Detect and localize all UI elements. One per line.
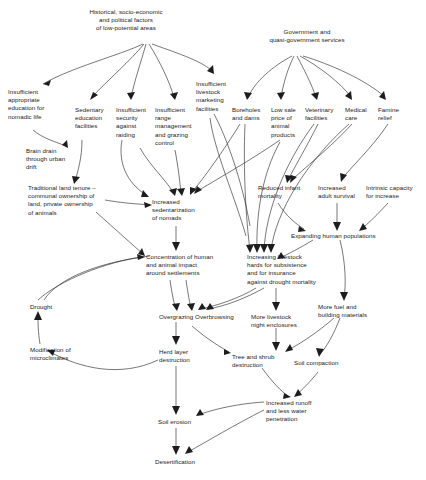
edge-tree-shrub-to-runoff	[262, 368, 288, 396]
node-boreholes-and-dams[interactable]: Boreholes and dams	[232, 106, 270, 122]
edge-runoff-to-soil-erosion	[198, 402, 264, 415]
node-fuel-and-building-materials[interactable]: More fuel and building materials	[318, 303, 378, 319]
edge-famine-to-adult-survival	[342, 124, 388, 179]
edge-government-to-low-sale	[281, 56, 294, 98]
edge-drought-to-concentration	[38, 257, 142, 300]
node-intrinsic-capacity[interactable]: Intrinsic capacity for increase	[366, 184, 424, 200]
edge-historical-to-security	[131, 44, 146, 98]
node-increasing-livestock-herds[interactable]: Increasing livestock hards for subsisten…	[247, 253, 329, 286]
node-expanding-human-populations[interactable]: Expanding human populations	[291, 232, 395, 240]
edge-group-government	[244, 56, 386, 100]
edge-security-to-sedentarization	[140, 148, 174, 194]
arrowhead-icon	[170, 92, 178, 100]
arrowhead-icon	[196, 409, 204, 416]
arrowhead-icon	[172, 303, 180, 311]
edge-drought-loop	[44, 256, 150, 300]
edge-expanding-to-fuel-building	[340, 240, 345, 298]
node-soil-erosion[interactable]: Soil erosion	[158, 418, 204, 426]
arrowhead-icon	[359, 223, 367, 231]
edge-historical-to-range-management	[149, 44, 174, 98]
edge-runoff-to-desertification	[188, 410, 264, 452]
node-range-management[interactable]: Insufficient range management and grazin…	[155, 106, 200, 147]
node-insufficient-security[interactable]: Insufficient security against raiding	[116, 106, 156, 139]
edge-land-tenure-to-concentration	[96, 212, 143, 254]
node-modification-of-microclimates[interactable]: Modification of microclimates	[30, 346, 84, 362]
arrowhead-icon	[34, 311, 42, 320]
arrowhead-icon	[311, 92, 319, 100]
node-historical-factors[interactable]: Historical, socio-economic and political…	[70, 8, 182, 33]
arrowhead-icon	[172, 242, 180, 251]
arrowhead-icon	[379, 91, 386, 100]
node-increased-runoff[interactable]: Increased runoff and less water penetrat…	[266, 399, 324, 424]
node-overgrazing-overbrowsing[interactable]: Overgrazing Overbrowsing	[159, 313, 253, 321]
node-night-enclosures[interactable]: More livestock night enclosures	[251, 313, 309, 329]
arrowhead-icon	[144, 202, 152, 208]
edge-sedentary-to-sedentarization	[121, 140, 146, 195]
edge-government-to-medical	[300, 56, 351, 97]
edge-government-to-famine	[303, 56, 385, 97]
arrowhead-icon	[260, 244, 268, 253]
arrowhead-icon	[207, 65, 214, 74]
arrowhead-icon	[316, 348, 324, 357]
arrowhead-icon	[224, 349, 231, 355]
arrowhead-icon	[340, 292, 348, 301]
node-medical-care[interactable]: Medical care	[345, 106, 377, 122]
arrowhead-icon	[206, 303, 214, 310]
node-government-services[interactable]: Government and quasi-government services	[252, 28, 362, 44]
node-increased-adult-survival[interactable]: Increased adult survival	[318, 184, 368, 200]
arrowhead-icon	[141, 190, 149, 197]
arrowhead-icon	[90, 92, 98, 100]
edge-intrinsic-to-expanding	[361, 203, 388, 229]
node-traditional-land-tenure[interactable]: Traditional land tenure – communal owner…	[28, 184, 112, 217]
arrowhead-icon	[285, 344, 293, 352]
node-soil-compaction[interactable]: Soil compaction	[294, 359, 352, 367]
arrowhead-icon	[72, 176, 80, 184]
node-livestock-marketing[interactable]: Insufficient livestock marketing facilit…	[196, 80, 236, 113]
node-tree-and-shrub-destruction[interactable]: Tree and shrub destruction	[232, 353, 284, 369]
arrowhead-icon	[172, 406, 180, 415]
arrowhead-icon	[169, 188, 177, 196]
arrowhead-icon	[172, 336, 180, 345]
edge-government-to-veterinary	[297, 56, 316, 98]
edge-historical-to-sedentary-education	[91, 44, 144, 98]
edge-reduced-infant-to-expanding	[278, 203, 304, 229]
arrowhead-icon	[267, 244, 275, 253]
arrowhead-icon	[345, 91, 352, 100]
arrowhead-icon	[272, 342, 280, 351]
arrowhead-icon	[294, 389, 302, 397]
node-concentration-of-impact[interactable]: Concentration of human and animal impact…	[146, 253, 234, 278]
edge-historical-to-education	[43, 44, 143, 84]
node-veterinary-facilities[interactable]: Veterinary facilities	[305, 106, 343, 122]
node-herb-layer-destruction[interactable]: Herd layer destruction	[159, 348, 203, 364]
arrowhead-icon	[177, 188, 185, 196]
arrowhead-icon	[198, 303, 206, 310]
arrowhead-icon	[244, 92, 252, 100]
edge-group-historical	[43, 44, 214, 100]
edge-livestock-to-overgrazing-2	[208, 288, 264, 309]
arrowhead-icon	[277, 92, 285, 100]
node-drought[interactable]: Drought	[30, 303, 64, 311]
node-increased-sedentarization[interactable]: Increased sedentarization of nomads	[152, 198, 206, 223]
edge-marketing-to-livestock-b	[210, 118, 246, 236]
edge-fuel-to-soil-compaction	[320, 318, 340, 354]
node-low-sale-price[interactable]: Low sale price of animal products	[271, 106, 305, 139]
arrowhead-icon	[272, 302, 280, 311]
node-insufficient-education[interactable]: Insufficient appropriate education for n…	[8, 88, 62, 121]
arrowhead-icon	[172, 446, 180, 455]
arrowhead-icon	[187, 303, 195, 311]
edge-boreholes-to-livestock	[244, 124, 250, 250]
causal-diagram: Historical, socio-economic and political…	[0, 0, 426, 480]
arrowhead-icon	[246, 244, 254, 253]
arrowhead-icon	[253, 244, 261, 253]
edge-historical-to-marketing	[152, 44, 213, 72]
node-desertification[interactable]: Desertification	[155, 458, 209, 466]
node-reduced-infant-mortality[interactable]: Reduced infant mortality	[258, 184, 312, 200]
arrowhead-icon	[127, 92, 135, 100]
node-famine-relief[interactable]: Famine relief	[378, 106, 408, 122]
node-sedentary-education[interactable]: Sedentary education facilities	[75, 106, 117, 131]
edge-range-to-sedentarization	[175, 150, 181, 194]
edge-education-to-brain-drain	[33, 130, 66, 146]
node-brain-drain[interactable]: Brain drain through urban drift	[26, 147, 80, 172]
arrowhead-icon	[333, 222, 341, 231]
